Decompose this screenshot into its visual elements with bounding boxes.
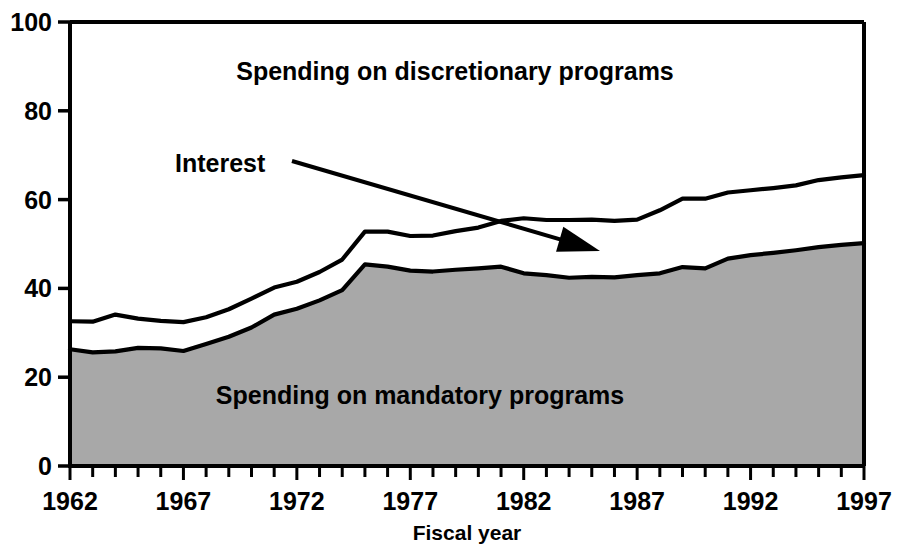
interest-callout-label: Interest <box>175 149 266 177</box>
y-tick-label: 80 <box>24 97 52 125</box>
y-tick-label: 60 <box>24 186 52 214</box>
x-tick-label: 1982 <box>496 487 552 515</box>
x-axis-title: Fiscal year <box>413 521 522 544</box>
discretionary-series-label: Spending on discretionary programs <box>236 57 674 85</box>
x-tick-label: 1962 <box>42 487 98 515</box>
y-tick-label: 0 <box>38 452 52 480</box>
x-tick-label: 1972 <box>269 487 325 515</box>
x-tick-label: 1987 <box>609 487 665 515</box>
x-tick-label: 1992 <box>723 487 779 515</box>
y-tick-label: 40 <box>24 274 52 302</box>
x-tick-label: 1977 <box>382 487 438 515</box>
stacked-area-chart: 0204060801001962196719721977198219871992… <box>0 0 910 558</box>
mandatory-series-label: Spending on mandatory programs <box>216 381 624 409</box>
x-tick-label: 1997 <box>836 487 892 515</box>
y-tick-label: 100 <box>10 8 52 36</box>
chart-container: 0204060801001962196719721977198219871992… <box>0 0 910 558</box>
y-tick-label: 20 <box>24 363 52 391</box>
x-tick-label: 1967 <box>156 487 212 515</box>
